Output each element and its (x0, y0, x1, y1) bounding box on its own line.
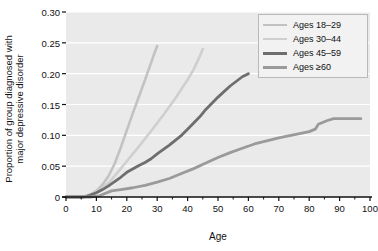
legend-swatch-icon (263, 38, 287, 40)
legend-label: Ages 18–29 (293, 20, 341, 30)
x-tick-label: 50 (213, 203, 224, 214)
legend-swatch-icon (263, 66, 287, 69)
x-tick-label: 100 (362, 203, 378, 214)
x-tick-label: 20 (122, 203, 133, 214)
legend-label: Ages 45–59 (293, 48, 341, 58)
x-tick-label: 40 (182, 203, 193, 214)
legend-swatch-icon (263, 52, 287, 55)
x-tick-label: 70 (274, 203, 285, 214)
chart-legend: Ages 18–29Ages 30–44Ages 45–59Ages ≥60 (258, 14, 368, 78)
legend-item-2: Ages 45–59 (263, 46, 363, 60)
legend-label: Ages 30–44 (293, 34, 341, 44)
x-tick-label: 10 (91, 203, 102, 214)
legend-item-0: Ages 18–29 (263, 18, 363, 32)
x-tick-label: 80 (304, 203, 315, 214)
x-tick-label: 90 (334, 203, 345, 214)
legend-swatch-icon (263, 24, 287, 26)
legend-item-1: Ages 30–44 (263, 32, 363, 46)
x-tick-label: 0 (63, 203, 68, 214)
x-axis-title: Age (66, 231, 370, 242)
legend-item-3: Ages ≥60 (263, 60, 363, 74)
x-tick-label: 30 (152, 203, 163, 214)
legend-label: Ages ≥60 (293, 62, 331, 72)
x-tick-label: 60 (243, 203, 254, 214)
